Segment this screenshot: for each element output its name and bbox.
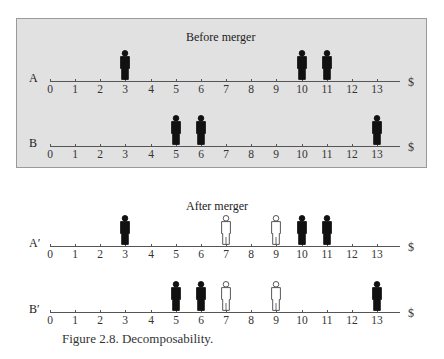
axis-tick — [327, 144, 328, 147]
number-line-axis — [50, 146, 400, 147]
tick-label: 9 — [266, 248, 286, 260]
axis-tick — [226, 79, 227, 82]
person-filled-icon — [118, 50, 132, 80]
tick-label: 10 — [292, 83, 312, 95]
tick-label: 13 — [367, 148, 387, 160]
person-filled-icon — [169, 115, 183, 145]
axis-tick — [75, 244, 76, 247]
tick-label: 9 — [266, 83, 286, 95]
person-filled-icon — [118, 215, 132, 245]
axis-tick — [352, 144, 353, 147]
axis-tick — [276, 144, 277, 147]
tick-label: 7 — [216, 248, 236, 260]
tick-label: 1 — [65, 314, 85, 326]
axis-tick — [201, 244, 202, 247]
tick-label: 2 — [90, 83, 110, 95]
tick-label: 6 — [191, 148, 211, 160]
axis-tick — [151, 244, 152, 247]
tick-label: 5 — [166, 314, 186, 326]
person-hollow-icon — [269, 215, 283, 245]
tick-label: 0 — [40, 148, 60, 160]
axis-tick — [226, 144, 227, 147]
tick-label: 12 — [342, 314, 362, 326]
axis-tick — [100, 244, 101, 247]
axis-tick — [327, 310, 328, 313]
tick-label: 8 — [241, 314, 261, 326]
axis-tick — [100, 144, 101, 147]
person-filled-icon — [194, 281, 208, 311]
tick-label: 5 — [166, 248, 186, 260]
tick-label: 2 — [90, 248, 110, 260]
tick-label: 2 — [90, 148, 110, 160]
row-label: B′ — [29, 302, 40, 317]
person-filled-icon — [194, 115, 208, 145]
tick-label: 4 — [141, 248, 161, 260]
tick-label: 1 — [65, 148, 85, 160]
tick-label: 6 — [191, 248, 211, 260]
axis-tick — [276, 79, 277, 82]
axis-tick — [302, 144, 303, 147]
tick-label: 6 — [191, 83, 211, 95]
tick-label: 7 — [216, 148, 236, 160]
dollar-axis-label: $ — [408, 140, 414, 155]
person-filled-icon — [320, 50, 334, 80]
axis-tick — [50, 310, 51, 313]
dollar-axis-label: $ — [408, 306, 414, 321]
tick-label: 3 — [115, 148, 135, 160]
person-filled-icon — [370, 281, 384, 311]
tick-label: 7 — [216, 314, 236, 326]
tick-label: 3 — [115, 83, 135, 95]
axis-tick — [50, 79, 51, 82]
axis-tick — [75, 79, 76, 82]
axis-tick — [125, 310, 126, 313]
row-label: A — [29, 71, 38, 86]
axis-tick — [50, 244, 51, 247]
dollar-axis-label: $ — [408, 75, 414, 90]
person-filled-icon — [295, 215, 309, 245]
tick-label: 6 — [191, 314, 211, 326]
axis-tick — [176, 244, 177, 247]
number-line-axis — [50, 246, 400, 247]
person-hollow-icon — [219, 215, 233, 245]
axis-tick — [176, 79, 177, 82]
tick-label: 10 — [292, 148, 312, 160]
tick-label: 4 — [141, 148, 161, 160]
axis-tick — [151, 144, 152, 147]
tick-label: 4 — [141, 83, 161, 95]
tick-label: 5 — [166, 83, 186, 95]
tick-label: 4 — [141, 314, 161, 326]
axis-tick — [377, 244, 378, 247]
tick-label: 3 — [115, 248, 135, 260]
person-filled-icon — [320, 215, 334, 245]
tick-label: 8 — [241, 83, 261, 95]
tick-label: 1 — [65, 248, 85, 260]
panel-title: Before merger — [186, 30, 255, 45]
tick-label: 13 — [367, 314, 387, 326]
axis-tick — [352, 310, 353, 313]
tick-label: 0 — [40, 314, 60, 326]
dollar-axis-label: $ — [408, 240, 414, 255]
person-hollow-icon — [269, 281, 283, 311]
axis-tick — [75, 144, 76, 147]
tick-label: 11 — [317, 83, 337, 95]
tick-label: 0 — [40, 248, 60, 260]
tick-label: 10 — [292, 248, 312, 260]
tick-label: 8 — [241, 248, 261, 260]
tick-label: 5 — [166, 148, 186, 160]
tick-label: 3 — [115, 314, 135, 326]
axis-tick — [251, 244, 252, 247]
tick-label: 12 — [342, 83, 362, 95]
axis-tick — [377, 79, 378, 82]
tick-label: 11 — [317, 314, 337, 326]
axis-tick — [125, 144, 126, 147]
axis-tick — [251, 310, 252, 313]
axis-tick — [352, 244, 353, 247]
axis-tick — [75, 310, 76, 313]
axis-tick — [151, 79, 152, 82]
axis-tick — [151, 310, 152, 313]
row-label: B — [29, 136, 37, 151]
panel-title: After merger — [186, 199, 248, 214]
tick-label: 10 — [292, 314, 312, 326]
tick-label: 13 — [367, 248, 387, 260]
tick-label: 9 — [266, 314, 286, 326]
